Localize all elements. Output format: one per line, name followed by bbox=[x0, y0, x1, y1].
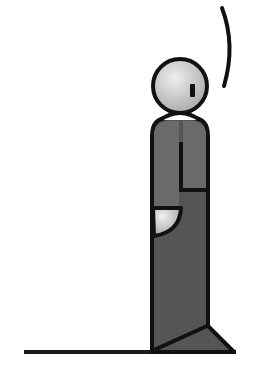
torso-right bbox=[183, 121, 206, 188]
torso-left bbox=[154, 121, 179, 212]
motion-arc-icon bbox=[222, 8, 230, 86]
head bbox=[153, 59, 207, 113]
standing-figure-illustration bbox=[0, 0, 258, 376]
eye-icon bbox=[190, 84, 195, 97]
